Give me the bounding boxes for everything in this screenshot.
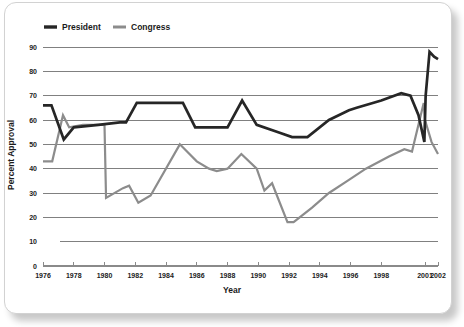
x-tick-label-1998: 1998: [373, 272, 389, 279]
legend-label-congress: Congress: [131, 22, 170, 32]
x-tick-label-1986: 1986: [189, 272, 205, 279]
y-tick-label-60: 60: [29, 117, 37, 124]
chart-legend: President Congress: [44, 22, 170, 32]
y-tick-label-0: 0: [33, 263, 37, 270]
x-axis-tickmarks: [43, 262, 438, 267]
x-tick-label-1978: 1978: [66, 272, 82, 279]
x-tick-label-1996: 1996: [343, 272, 359, 279]
x-tick-label-1990: 1990: [250, 272, 266, 279]
legend-label-president: President: [62, 22, 101, 32]
series-line-congress: [43, 103, 438, 222]
x-tick-label-1976: 1976: [35, 272, 51, 279]
y-axis-tick-labels: 0102030405060708090: [29, 44, 37, 270]
x-tick-label-1984: 1984: [158, 272, 174, 279]
y-tick-label-20: 20: [29, 214, 37, 221]
x-tick-label-1988: 1988: [220, 272, 236, 279]
y-axis-title: Percent Approval: [6, 120, 16, 190]
y-tick-label-30: 30: [29, 190, 37, 197]
chart-figure: President Congress 0102030405060708090 1…: [0, 0, 464, 327]
y-tick-label-10: 10: [29, 238, 37, 245]
x-tick-label-1982: 1982: [127, 272, 143, 279]
x-tick-label-1992: 1992: [281, 272, 297, 279]
y-tick-label-50: 50: [29, 141, 37, 148]
x-tick-label-2002: 2002: [430, 272, 446, 279]
x-tick-label-1980: 1980: [97, 272, 113, 279]
series-line-president: [43, 52, 438, 142]
x-axis-title: Year: [223, 285, 242, 295]
gridlines: [43, 47, 438, 242]
y-tick-label-70: 70: [29, 92, 37, 99]
y-tick-label-40: 40: [29, 165, 37, 172]
x-axis-tick-labels: 1976197819801982198419861988199019921994…: [35, 272, 446, 279]
y-tick-label-80: 80: [29, 68, 37, 75]
x-tick-label-1994: 1994: [312, 272, 328, 279]
y-tick-label-90: 90: [29, 44, 37, 51]
approval-line-chart: President Congress 0102030405060708090 1…: [0, 0, 464, 327]
